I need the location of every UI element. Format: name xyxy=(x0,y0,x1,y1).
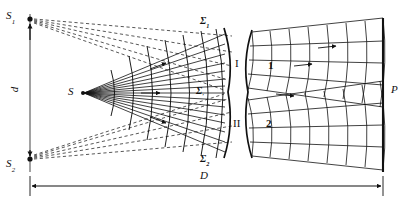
label-wavefront-sigma1: Σ1 xyxy=(200,16,209,28)
optics-diagram-figure: S1 S2 d S Σ1 Σ′ Σ2 I II 1 2 P D xyxy=(0,0,407,213)
label-wavefront-sigma-prime: Σ′ xyxy=(196,86,204,98)
label-beam-2: 2 xyxy=(266,118,272,129)
label-prism-region-II: II xyxy=(233,118,240,129)
label-distance-d: D xyxy=(200,170,208,181)
label-screen-point-p: P xyxy=(391,84,398,95)
label-virtual-source-s2: S2 xyxy=(6,158,15,172)
label-wavefront-sigma2: Σ2 xyxy=(200,154,209,166)
biprism-lower-face xyxy=(246,30,252,158)
label-virtual-source-s1: S1 xyxy=(6,10,15,24)
label-separation-d: d xyxy=(9,87,20,93)
label-prism-region-I: I xyxy=(235,58,239,69)
label-source-s: S xyxy=(68,86,74,97)
spherical-wavefront-arcs xyxy=(111,29,223,158)
label-beam-1: 1 xyxy=(268,60,274,71)
diagram-canvas xyxy=(0,0,407,213)
